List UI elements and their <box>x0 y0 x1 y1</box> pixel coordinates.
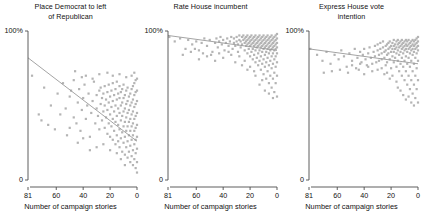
x-tick-label: 0 <box>408 192 422 200</box>
fit-line <box>28 58 137 141</box>
x-axis-title: Number of campaign stories <box>0 202 141 211</box>
y-axis-bottom-label: 0 <box>140 176 163 184</box>
x-tick-label: 20 <box>240 192 260 200</box>
x-axis-title: Number of campaign stories <box>281 202 422 211</box>
x-tick-label: 60 <box>327 192 347 200</box>
x-tick-label: 20 <box>381 192 401 200</box>
x-tick-label: 40 <box>213 192 233 200</box>
y-axis-top-label: 100% <box>0 27 23 35</box>
x-tick-label: 40 <box>354 192 374 200</box>
panel-2: Express House vote intention 100% 0 Numb… <box>281 0 422 219</box>
x-tick-label: 81 <box>18 192 38 200</box>
x-axis-title: Number of campaign stories <box>140 202 281 211</box>
y-axis-top-label: 100% <box>281 27 304 35</box>
x-tick-label: 81 <box>299 192 319 200</box>
scatter-points <box>31 70 138 174</box>
x-tick-label: 81 <box>158 192 178 200</box>
x-tick-label: 20 <box>100 192 120 200</box>
fit-line <box>309 49 418 64</box>
x-tick-label: 40 <box>73 192 93 200</box>
y-axis-bottom-label: 0 <box>0 176 23 184</box>
scatter-points <box>309 36 419 107</box>
panel-1: Rate House incumbent 100% 0 Number of ca… <box>140 0 281 219</box>
y-axis-bottom-label: 0 <box>281 176 304 184</box>
x-tick-label: 60 <box>186 192 206 200</box>
figure-scatter-panels: Place Democrat to left of Republican 100… <box>0 0 422 219</box>
x-tick-label: 60 <box>46 192 66 200</box>
y-axis-top-label: 100% <box>140 27 163 35</box>
panel-0: Place Democrat to left of Republican 100… <box>0 0 141 219</box>
